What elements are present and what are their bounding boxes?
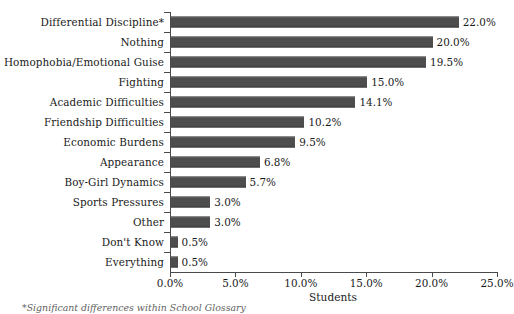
chart-row: Boy-Girl Dynamics5.7% [0,172,513,192]
bar [171,157,260,168]
bar [171,177,246,188]
bar [171,237,178,248]
category-label: Academic Difficulties [50,97,164,107]
category-tick [164,212,170,213]
category-label: Boy-Girl Dynamics [64,177,164,187]
category-tick [164,112,170,113]
category-label: Sports Pressures [73,197,164,207]
chart-row: Differential Discipline*22.0% [0,12,513,32]
category-label: Don't Know [102,237,164,247]
bar [171,117,304,128]
chart-row: Sports Pressures3.0% [0,192,513,212]
x-axis-tick-label: 10.0% [284,278,317,288]
bar [171,77,367,88]
bar [171,217,210,228]
bar-value-label: 3.0% [214,197,240,207]
bar [171,57,426,68]
category-tick [164,92,170,93]
category-tick [164,132,170,133]
category-label: Everything [105,257,164,267]
category-label: Fighting [118,77,164,87]
chart-row: Fighting15.0% [0,72,513,92]
bar-value-label: 5.7% [250,177,276,187]
chart-row: Don't Know0.5% [0,232,513,252]
bar-value-label: 20.0% [437,37,470,47]
chart-row: Everything0.5% [0,252,513,272]
chart-row: Friendship Difficulties10.2% [0,112,513,132]
bar-value-label: 22.0% [463,17,496,27]
bar-value-label: 9.5% [299,137,325,147]
x-axis-tick-label: 20.0% [415,278,448,288]
category-tick [164,152,170,153]
category-label: Friendship Difficulties [44,117,164,127]
category-label: Differential Discipline* [41,17,165,27]
category-label: Homophobia/Emotional Guise [4,57,164,67]
category-tick [164,252,170,253]
bar-value-label: 0.5% [182,257,208,267]
category-tick [164,192,170,193]
chart-row: Nothing20.0% [0,32,513,52]
category-tick [164,52,170,53]
x-axis-tick-label: 5.0% [222,278,248,288]
category-tick [164,12,170,13]
value-axis-line [170,272,498,273]
bar [171,197,210,208]
category-tick [164,72,170,73]
category-label: Economic Burdens [63,137,164,147]
category-tick [164,172,170,173]
bar-value-label: 14.1% [359,97,392,107]
bar-value-label: 6.8% [264,157,290,167]
chart-row: Appearance6.8% [0,152,513,172]
chart-row: Economic Burdens9.5% [0,132,513,152]
category-label: Nothing [120,37,164,47]
bar [171,257,178,268]
bar [171,97,355,108]
chart-footnote: *Significant differences within School G… [22,303,246,312]
bar-value-label: 19.5% [430,57,463,67]
bar [171,37,433,48]
category-label: Other [133,217,164,227]
x-axis-tick-label: 25.0% [480,278,513,288]
category-label: Appearance [100,157,164,167]
bar [171,137,295,148]
chart-row: Academic Difficulties14.1% [0,92,513,112]
x-axis-title: Students [309,292,357,303]
bar-value-label: 3.0% [214,217,240,227]
bar-value-label: 10.2% [308,117,341,127]
chart-row: Other3.0% [0,212,513,232]
x-axis-tick-label: 0.0% [157,278,183,288]
chart-row: Homophobia/Emotional Guise19.5% [0,52,513,72]
x-axis-tick-label: 15.0% [350,278,383,288]
category-tick [164,32,170,33]
bar-value-label: 15.0% [371,77,404,87]
category-tick [164,232,170,233]
bar-value-label: 0.5% [182,237,208,247]
bar [171,17,459,28]
